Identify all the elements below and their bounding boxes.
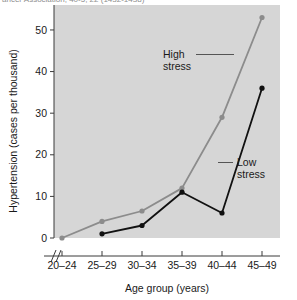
data-point-low-stress <box>139 223 144 228</box>
x-axis: 20–2425–2930–3435–3940–4445–49 <box>44 250 280 271</box>
data-point-low-stress <box>99 231 104 236</box>
truncated-caption: ancer Association; 40-5, 22 (1432-1438) <box>0 0 297 5</box>
data-point-high-stress <box>99 219 104 224</box>
annotation-high-stress-text: stress <box>163 60 191 72</box>
y-axis-tick-label: 30 <box>35 107 47 119</box>
y-axis-tick-label: 40 <box>35 65 47 77</box>
data-point-high-stress <box>59 235 64 240</box>
x-axis-tick-label: 35–39 <box>167 259 196 271</box>
x-axis-tick-label: 20–24 <box>47 259 76 271</box>
annotation-low-stress-text: Low <box>237 156 257 168</box>
x-axis-tick-label: 25–29 <box>87 259 116 271</box>
y-axis-tick-label: 50 <box>35 24 47 36</box>
annotation-high-stress-text: High <box>163 48 185 60</box>
y-axis: 01020304050 <box>35 5 54 244</box>
data-point-low-stress <box>219 210 224 215</box>
y-axis-tick-label: 0 <box>41 232 47 244</box>
y-axis-tick-label: 10 <box>35 190 47 202</box>
line-chart: 01020304050 20–2425–2930–3435–3940–4445–… <box>0 0 297 300</box>
y-axis-tick-label: 20 <box>35 148 47 160</box>
data-point-high-stress <box>219 115 224 120</box>
x-axis-tick-label: 45–49 <box>247 259 276 271</box>
data-point-high-stress <box>259 15 264 20</box>
chart-figure: ancer Association; 40-5, 22 (1432-1438) … <box>0 0 297 300</box>
x-axis-tick-label: 30–34 <box>127 259 156 271</box>
data-point-high-stress <box>139 208 144 213</box>
x-axis-title: Age group (years) <box>125 282 209 294</box>
caption-text: ancer Association; 40-5, 22 (1432-1438) <box>2 0 144 4</box>
annotation-low-stress-text: stress <box>237 168 265 180</box>
y-axis-title: Hypertension (cases per thousand) <box>7 49 19 212</box>
data-point-low-stress <box>179 190 184 195</box>
x-axis-tick-label: 40–44 <box>207 259 236 271</box>
plot-background <box>54 5 280 238</box>
data-point-low-stress <box>259 86 264 91</box>
